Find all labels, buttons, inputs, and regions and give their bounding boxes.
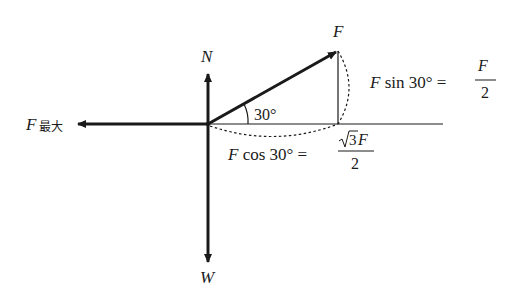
angle-label: 30° bbox=[254, 106, 276, 123]
horizontal-dashed-brace bbox=[210, 124, 338, 137]
fmax-subscript: 最大 bbox=[39, 120, 63, 134]
vertical-component-equation: F sin 30° = F 2 bbox=[369, 57, 496, 101]
svg-text:F: F bbox=[357, 131, 368, 148]
svg-text:F: F bbox=[477, 57, 488, 74]
angle-arc bbox=[244, 104, 248, 124]
svg-text:3: 3 bbox=[349, 132, 357, 148]
force-diagram: N W F F 最大 30° F sin 30° = F 2 F cos 30°… bbox=[0, 0, 521, 307]
svg-text:F sin 30° =: F sin 30° = bbox=[369, 73, 446, 92]
weight-label: W bbox=[200, 268, 216, 287]
vertical-dashed-brace bbox=[338, 51, 349, 124]
applied-force-label: F bbox=[332, 22, 344, 41]
horizontal-component-equation: F cos 30° = 3 F 2 bbox=[227, 131, 374, 172]
svg-text:2: 2 bbox=[481, 84, 489, 101]
svg-text:2: 2 bbox=[351, 155, 359, 172]
fmax-label: F bbox=[25, 115, 37, 134]
normal-force-label: N bbox=[200, 47, 214, 66]
svg-text:F cos 30° =: F cos 30° = bbox=[227, 145, 307, 164]
